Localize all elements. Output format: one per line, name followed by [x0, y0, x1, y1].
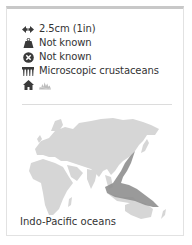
range-caption: Indo-Pacific oceans	[20, 216, 116, 227]
fact-status: Not known	[22, 50, 159, 64]
distribution-map	[21, 111, 171, 219]
fact-size: 2.5cm (1in)	[22, 22, 159, 36]
world-map-eastern-hemisphere	[21, 111, 171, 219]
fact-list: 2.5cm (1in) Not known Not known Microsco…	[22, 22, 159, 92]
weight-icon	[22, 38, 34, 49]
status-value: Not known	[39, 50, 92, 64]
fact-habitat	[22, 78, 159, 92]
size-value: 2.5cm (1in)	[39, 22, 96, 36]
no-status-icon	[22, 52, 34, 63]
fact-weight: Not known	[22, 36, 159, 50]
weight-value: Not known	[39, 36, 92, 50]
divider	[22, 104, 172, 105]
fact-diet: Microscopic crustaceans	[22, 64, 159, 78]
reef-habitat-icon	[39, 80, 51, 91]
width-arrows-icon	[22, 24, 34, 35]
diet-value: Microscopic crustaceans	[39, 64, 159, 78]
diet-comb-icon	[22, 66, 34, 77]
species-fact-card: 2.5cm (1in) Not known Not known Microsco…	[6, 6, 184, 236]
home-icon	[22, 80, 34, 91]
